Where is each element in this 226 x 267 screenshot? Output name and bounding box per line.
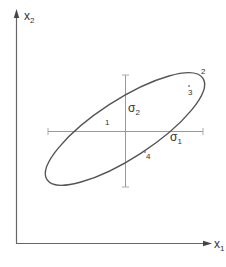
x-axis-arrow-icon — [203, 241, 212, 246]
sigma-2-label: σ2 — [128, 101, 140, 117]
y-axis-label: x2 — [24, 9, 35, 25]
x-axis-label: x1 — [214, 237, 225, 253]
ellipse-diagram: x2 x1 σ2 σ1 1 2 3 4 — [0, 0, 226, 267]
point-3-marker — [188, 85, 190, 87]
sigma-1-label: σ1 — [170, 130, 182, 146]
point-2-label: 2 — [201, 67, 206, 76]
point-1-label: 1 — [105, 118, 110, 127]
y-axis-arrow-icon — [14, 9, 19, 18]
point-4-label: 4 — [146, 152, 151, 161]
point-3-label: 3 — [188, 88, 193, 97]
